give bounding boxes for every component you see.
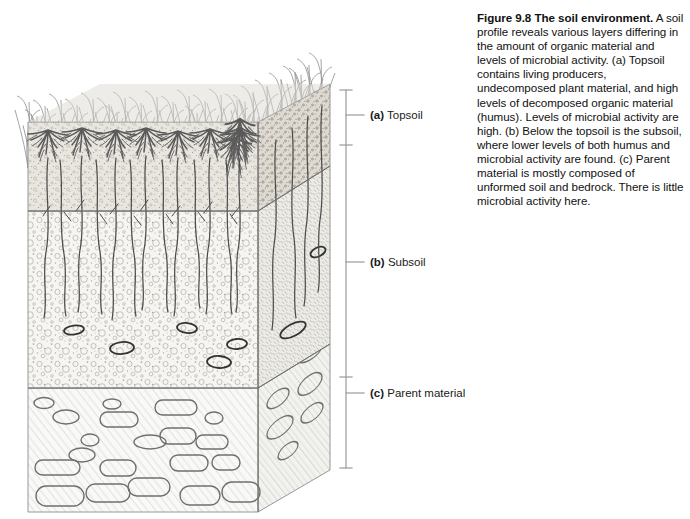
layer-label-parent-material: (c) Parent material [370, 387, 465, 400]
layer-label-topsoil: (a) Topsoil [370, 109, 423, 122]
topsoil-horizon [28, 84, 330, 211]
figure-caption: Figure 9.8 The soil environment. A soil … [477, 11, 685, 208]
figure-caption-body: A soil profile reveals various layers di… [477, 11, 683, 207]
figure-page: (a) Topsoil (b) Subsoil (c) Parent mater… [0, 0, 690, 519]
layer-key-c: (c) [370, 387, 384, 399]
layer-label-subsoil: (b) Subsoil [370, 256, 426, 269]
layer-name-parent-material: Parent material [387, 387, 465, 399]
layer-key-b: (b) [370, 256, 385, 268]
figure-title: The soil environment. [534, 11, 653, 24]
layer-name-subsoil: Subsoil [388, 256, 426, 268]
figure-number: Figure 9.8 [477, 11, 531, 24]
layer-name-topsoil: Topsoil [387, 109, 423, 121]
layer-key-a: (a) [370, 109, 384, 121]
